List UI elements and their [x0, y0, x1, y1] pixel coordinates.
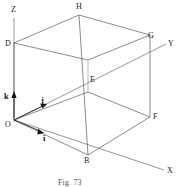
edge-etop-d	[14, 43, 88, 60]
vertex-labels: O B F E D H G	[5, 2, 158, 165]
edge-f-e	[88, 92, 150, 117]
vector-label-k: k	[4, 91, 9, 101]
axis-label-z: Z	[11, 5, 16, 14]
vertex-label-o: O	[5, 120, 11, 129]
vector-label-j: j	[40, 95, 44, 105]
axis-lines	[14, 18, 166, 170]
vertex-label-e: E	[90, 75, 95, 84]
unit-vector-labels: i j k	[4, 91, 46, 143]
edge-b-f	[88, 117, 150, 155]
vertex-label-g: G	[148, 31, 154, 40]
figure-caption-text: Fig. 73	[58, 178, 82, 187]
axis-label-x: X	[167, 166, 173, 175]
figure-caption: Fig. 73	[58, 178, 82, 187]
vector-label-i: i	[43, 133, 46, 143]
vertex-label-f: F	[153, 112, 158, 121]
edge-e-o	[14, 92, 88, 120]
vector-j-line	[14, 106, 43, 120]
cube-diagram: Z Y X O B F E D H G i j k Fig. 73	[0, 0, 177, 187]
vertex-label-b: B	[84, 156, 89, 165]
axis-label-y: Y	[168, 39, 174, 48]
vector-k-arrowhead	[11, 91, 16, 98]
cube-edges	[14, 15, 150, 155]
vector-i-line	[14, 120, 40, 131]
edge-d-h	[14, 15, 79, 43]
figure-container: Z Y X O B F E D H G i j k Fig. 73	[0, 0, 177, 187]
vertex-label-h: H	[76, 2, 82, 11]
edge-o-b	[14, 120, 88, 155]
edge-h-b-vertical	[79, 15, 88, 155]
vertex-label-d: D	[5, 39, 11, 48]
edge-g-etop	[88, 35, 150, 60]
edge-h-g	[79, 15, 150, 35]
